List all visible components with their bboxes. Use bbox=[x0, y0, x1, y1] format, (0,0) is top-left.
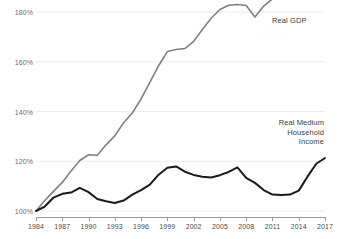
series-label-real-gdp: Real GDP bbox=[272, 16, 307, 26]
gridlines bbox=[36, 12, 325, 211]
watermark bbox=[258, 28, 284, 42]
x-axis-tick bbox=[141, 217, 142, 221]
x-axis-tick-label: 1990 bbox=[81, 223, 97, 230]
x-axis: 1984198719901993199619992002200520082011… bbox=[36, 217, 325, 239]
x-axis-tick-label: 2005 bbox=[212, 223, 228, 230]
plot-area bbox=[36, 12, 325, 211]
x-axis-tick-label: 1984 bbox=[28, 223, 44, 230]
x-axis-tick-label: 1987 bbox=[54, 223, 70, 230]
x-axis-line bbox=[36, 217, 325, 218]
x-axis-tick bbox=[220, 217, 221, 221]
y-axis-tick-label: 140% bbox=[1, 108, 33, 115]
x-axis-tick bbox=[62, 217, 63, 221]
x-axis-tick bbox=[89, 217, 90, 221]
x-axis-tick-label: 1993 bbox=[107, 223, 123, 230]
x-axis-tick bbox=[246, 217, 247, 221]
x-axis-tick-label: 1999 bbox=[159, 223, 175, 230]
x-axis-tick bbox=[194, 217, 195, 221]
series-container bbox=[36, 12, 325, 211]
x-axis-tick bbox=[325, 217, 326, 221]
x-axis-tick bbox=[299, 217, 300, 221]
series-line-real-medium-household-income bbox=[36, 158, 325, 211]
y-axis-tick-label: 120% bbox=[1, 158, 33, 165]
y-axis-tick-label: 100% bbox=[1, 208, 33, 215]
x-axis-tick-label: 2008 bbox=[238, 223, 254, 230]
x-axis-tick bbox=[167, 217, 168, 221]
y-axis: 100%120%140%160%180% bbox=[0, 12, 33, 211]
y-axis-tick-label: 160% bbox=[1, 58, 33, 65]
y-axis-tick-label: 180% bbox=[1, 9, 33, 16]
x-axis-tick-label: 2002 bbox=[186, 223, 202, 230]
line-chart: 100%120%140%160%180% Real GDP Real Mediu… bbox=[0, 0, 342, 239]
x-axis-tick-label: 2017 bbox=[317, 223, 333, 230]
x-axis-tick-label: 2011 bbox=[265, 223, 280, 230]
series-label-real-medium-household-income: Real Medium Household Income bbox=[279, 118, 324, 147]
x-axis-tick bbox=[115, 217, 116, 221]
x-axis-tick-label: 2014 bbox=[291, 223, 307, 230]
x-axis-tick bbox=[272, 217, 273, 221]
x-axis-tick bbox=[36, 217, 37, 221]
x-axis-tick-label: 1996 bbox=[133, 223, 149, 230]
